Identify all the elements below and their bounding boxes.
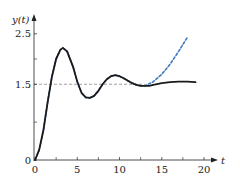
y-tick-label: 0 <box>25 155 31 166</box>
x-tick-label: 5 <box>74 164 80 175</box>
solid-series-line <box>35 48 196 160</box>
y-axis-arrow-icon <box>32 14 37 21</box>
x-tick-label: 15 <box>155 164 168 175</box>
axes-layer <box>32 14 219 163</box>
x-axis-arrow-icon <box>211 158 218 163</box>
y-tick-label: 2.5 <box>15 28 31 39</box>
x-tick-label: 0 <box>32 164 38 175</box>
x-tick-label: 10 <box>113 164 126 175</box>
ticks-layer: 0510152001.52.5 <box>15 28 210 175</box>
line-chart: 0510152001.52.5 t y(t) <box>0 0 240 181</box>
y-axis-label: y(t) <box>11 14 30 25</box>
x-tick-label: 20 <box>198 164 211 175</box>
x-axis-label: t <box>221 155 226 166</box>
y-tick-label: 1.5 <box>15 79 31 90</box>
series-layer <box>35 38 196 160</box>
